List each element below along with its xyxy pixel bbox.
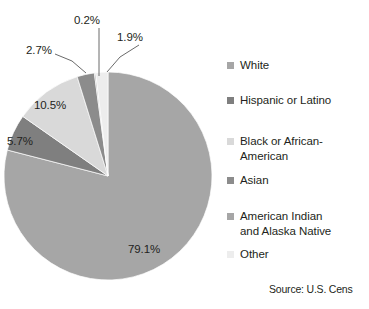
- legend-label-hispanic-or-latino: Hispanic or Latino: [240, 93, 331, 108]
- legend-label-black-or-african-american: Black or African- American: [240, 134, 323, 164]
- legend-item-white[interactable]: White: [227, 58, 269, 73]
- slice-value-label-american-indian-and-alaska-native: 0.2%: [74, 14, 100, 26]
- slice-value-label-hispanic-or-latino: 5.7%: [7, 135, 33, 147]
- legend-item-asian[interactable]: Asian: [227, 173, 269, 188]
- pie-chart-figure: 79.1% 5.7% 10.5% 2.7% 0.2% 1.9% White Hi…: [0, 0, 369, 309]
- legend-swatch-icon-american-indian-and-alaska-native: [227, 213, 234, 220]
- legend-swatch-icon-white: [227, 62, 234, 69]
- slice-value-label-other: 1.9%: [117, 31, 143, 43]
- slice-value-label-black-or-african-american: 10.5%: [34, 99, 66, 111]
- legend-item-black-or-african-american[interactable]: Black or African- American: [227, 134, 323, 164]
- legend-label-white: White: [240, 58, 269, 73]
- legend-label-american-indian-and-alaska-native: American Indian and Alaska Native: [240, 209, 331, 239]
- slice-value-label-asian: 2.7%: [26, 44, 52, 56]
- legend-swatch-icon-black-or-african-american: [227, 138, 234, 145]
- legend-swatch-icon-asian: [227, 177, 234, 184]
- leader-line-asian: [55, 54, 86, 73]
- legend-item-other[interactable]: Other: [227, 247, 269, 262]
- legend-swatch-icon-other: [227, 251, 234, 258]
- legend-label-asian: Asian: [240, 173, 269, 188]
- legend-item-american-indian-and-alaska-native[interactable]: American Indian and Alaska Native: [227, 209, 331, 239]
- legend-label-other: Other: [240, 247, 269, 262]
- leader-line-other: [107, 45, 139, 72]
- source-note: Source: U.S. Cens: [269, 283, 353, 295]
- legend-item-hispanic-or-latino[interactable]: Hispanic or Latino: [227, 93, 331, 108]
- legend-swatch-icon-hispanic-or-latino: [227, 97, 234, 104]
- slice-value-label-white: 79.1%: [128, 243, 160, 255]
